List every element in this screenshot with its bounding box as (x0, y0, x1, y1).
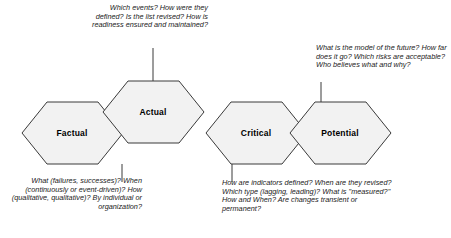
diagram-canvas: Factual Actual Critical Potential Which … (0, 0, 451, 238)
hexagon-label-actual: Actual (139, 107, 166, 117)
annotation-factual: What (failures, successes)? When (contin… (4, 177, 142, 211)
annotation-critical: How are indicators defined? When are the… (222, 179, 392, 213)
hexagon-label-critical: Critical (241, 128, 271, 138)
hexagon-label-factual: Factual (56, 128, 87, 138)
annotation-actual: Which events? How were they defined? Is … (88, 4, 208, 30)
annotation-potential: What is the model of the future? How far… (316, 44, 448, 70)
hexagon-label-potential: Potential (321, 128, 359, 138)
